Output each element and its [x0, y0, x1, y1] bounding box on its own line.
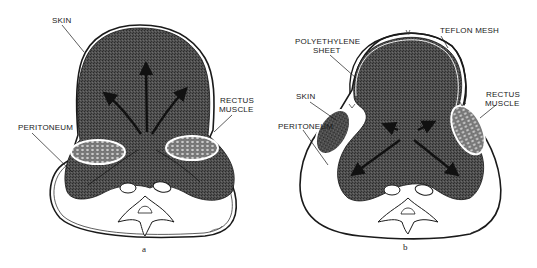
label-peritoneum-a: PERITONEUM — [18, 123, 73, 132]
kidney-left-a — [120, 183, 136, 193]
caption-b: b — [403, 242, 408, 252]
label-teflon-mesh: TEFLON MESH — [440, 26, 499, 35]
rectus-muscle-left-a — [71, 140, 125, 164]
kidney-left-b — [384, 185, 400, 195]
label-rectus-a-1: RECTUS — [220, 96, 254, 105]
figure-canvas — [0, 0, 537, 268]
viscera-a — [65, 28, 234, 200]
label-skin-b: SKIN — [296, 92, 315, 101]
label-polyethylene-1: POLYETHYLENE — [295, 37, 360, 46]
label-polyethylene-2: SHEET — [313, 46, 341, 55]
label-peritoneum-b: PERITONEUM — [278, 122, 333, 131]
label-skin-a: SKIN — [52, 16, 71, 25]
label-rectus-b-2: MUSCLE — [485, 99, 520, 108]
panel-b — [300, 30, 501, 239]
label-rectus-a-2: MUSCLE — [219, 105, 254, 114]
label-rectus-b-1: RECTUS — [486, 90, 520, 99]
caption-a: a — [142, 244, 146, 254]
rectus-muscle-right-a — [166, 136, 218, 160]
